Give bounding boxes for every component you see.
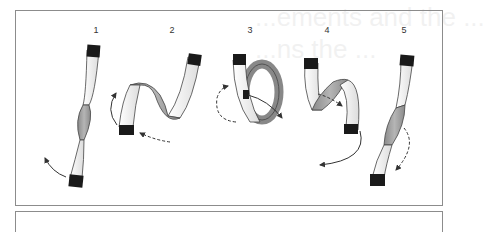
step-3-strip — [217, 54, 282, 122]
rotate-arrow-icon — [45, 158, 66, 177]
rotate-arrow-icon — [111, 93, 117, 125]
end-cap-top — [187, 53, 201, 66]
step-1-strip — [45, 45, 100, 188]
end-cap-inner — [243, 90, 249, 99]
end-cap-bottom — [68, 174, 83, 187]
around-loop-arrow-dashed-icon — [217, 86, 236, 122]
move-arrow-dashed-icon — [140, 133, 170, 142]
end-cap-top — [233, 54, 246, 65]
step-4-strip — [304, 58, 361, 165]
end-cap-top — [400, 54, 415, 66]
end-cap-top — [304, 58, 318, 69]
end-cap-bottom — [119, 125, 134, 135]
end-cap-bottom — [370, 174, 385, 186]
step-2-strip — [111, 53, 202, 142]
step-5-strip — [370, 54, 414, 186]
end-cap-top — [87, 45, 101, 58]
end-cap-bottom — [344, 124, 358, 134]
swing-arrow-icon — [320, 131, 361, 165]
